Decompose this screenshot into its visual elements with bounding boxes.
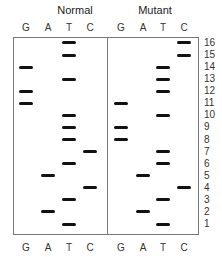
lane-label-normal-t-bottom: T <box>63 242 75 253</box>
lane-label-mutant-a-top: A <box>137 22 149 33</box>
band-normal-c-4 <box>83 186 97 189</box>
row-number: 7 <box>204 146 220 157</box>
band-normal-a-5 <box>41 174 55 177</box>
band-mutant-t-7 <box>156 150 170 153</box>
lane-label-mutant-c-bottom: C <box>178 242 190 253</box>
row-number: 8 <box>204 134 220 145</box>
band-mutant-a-2 <box>136 210 150 213</box>
row-number: 13 <box>204 73 220 84</box>
band-mutant-t-3 <box>156 198 170 201</box>
lane-label-normal-g-top: G <box>20 22 32 33</box>
band-normal-c-7 <box>83 150 97 153</box>
lane-label-normal-a-top: A <box>42 22 54 33</box>
band-normal-t-6 <box>62 162 76 165</box>
band-mutant-t-10 <box>156 114 170 117</box>
band-normal-g-12 <box>19 90 33 93</box>
band-mutant-a-5 <box>136 174 150 177</box>
band-mutant-t-14 <box>156 66 170 69</box>
lane-label-normal-t-top: T <box>63 22 75 33</box>
lane-label-normal-g-bottom: G <box>20 242 32 253</box>
lane-label-mutant-t-bottom: T <box>157 242 169 253</box>
row-number: 11 <box>204 97 220 108</box>
gel-frame <box>13 37 199 235</box>
band-normal-t-15 <box>62 54 76 57</box>
band-normal-t-10 <box>62 114 76 117</box>
lane-label-normal-c-top: C <box>84 22 96 33</box>
row-number: 5 <box>204 170 220 181</box>
lane-label-mutant-a-bottom: A <box>137 242 149 253</box>
band-normal-t-13 <box>62 78 76 81</box>
panel-divider <box>107 37 108 235</box>
lane-label-mutant-c-top: C <box>178 22 190 33</box>
panel-title-normal: Normal <box>35 4 115 16</box>
band-normal-t-16 <box>62 41 76 44</box>
band-normal-g-14 <box>19 66 33 69</box>
lane-label-mutant-g-bottom: G <box>115 242 127 253</box>
band-normal-a-2 <box>41 210 55 213</box>
band-normal-t-1 <box>62 223 76 226</box>
lane-label-normal-a-bottom: A <box>42 242 54 253</box>
row-number: 10 <box>204 109 220 120</box>
lane-label-mutant-t-top: T <box>157 22 169 33</box>
band-mutant-t-1 <box>156 223 170 226</box>
row-number: 2 <box>204 206 220 217</box>
row-number: 9 <box>204 121 220 132</box>
band-normal-t-9 <box>62 126 76 129</box>
band-normal-g-11 <box>19 102 33 105</box>
row-number: 1 <box>204 218 220 229</box>
row-number: 15 <box>204 49 220 60</box>
band-mutant-c-4 <box>177 186 191 189</box>
row-number: 12 <box>204 85 220 96</box>
band-mutant-t-12 <box>156 90 170 93</box>
lane-label-normal-c-bottom: C <box>84 242 96 253</box>
band-mutant-t-6 <box>156 162 170 165</box>
row-number: 4 <box>204 182 220 193</box>
band-mutant-c-15 <box>177 54 191 57</box>
band-mutant-t-13 <box>156 78 170 81</box>
band-mutant-c-16 <box>177 41 191 44</box>
lane-label-mutant-g-top: G <box>115 22 127 33</box>
panel-title-mutant: Mutant <box>115 4 195 16</box>
band-normal-t-8 <box>62 138 76 141</box>
band-mutant-g-11 <box>114 102 128 105</box>
band-normal-t-3 <box>62 198 76 201</box>
row-number: 16 <box>204 37 220 48</box>
band-mutant-g-8 <box>114 138 128 141</box>
row-number: 3 <box>204 194 220 205</box>
band-mutant-g-9 <box>114 126 128 129</box>
row-number: 14 <box>204 61 220 72</box>
row-number: 6 <box>204 158 220 169</box>
